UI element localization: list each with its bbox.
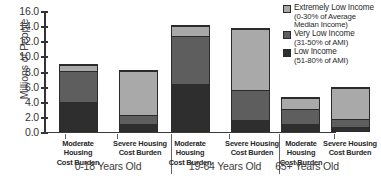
- legend-swatch-icon: [283, 5, 291, 13]
- category-label-line1: Severe Housing: [323, 139, 377, 148]
- category-label-line1: Moderate Housing: [285, 139, 317, 157]
- y-tick-mark: [41, 56, 48, 58]
- y-tick-mark: [41, 41, 48, 43]
- bar-segment-low: [332, 127, 369, 131]
- y-tick-label: 14.0: [19, 20, 39, 32]
- legend-label-sub: (51-80% of AMI): [294, 57, 348, 65]
- y-tick-label: 16.0: [19, 5, 39, 17]
- bar-segment-low: [60, 102, 97, 131]
- y-tick-label: 2.0: [25, 111, 39, 123]
- bar-segment-verylow: [332, 119, 369, 126]
- legend-label-sub: Median Income): [294, 21, 374, 29]
- legend-label: Low Income(51-80% of AMI): [294, 48, 348, 65]
- bar-segment-extreme: [282, 98, 319, 109]
- y-tick-label: 4.0: [25, 96, 39, 108]
- legend-label: Extremely Low Income(0-30% of AverageMed…: [294, 4, 374, 29]
- y-tick-mark: [41, 72, 48, 74]
- category-label-line1: Moderate Housing: [62, 139, 94, 157]
- group-label: 65+ Years Old: [257, 160, 357, 172]
- y-tick-mark: [41, 11, 48, 13]
- x-axis-baseline: [44, 132, 336, 133]
- y-tick-label: 6.0: [25, 81, 39, 93]
- legend-swatch-icon: [283, 49, 291, 57]
- legend-label-sub: (31-50% of AMI): [294, 39, 355, 47]
- legend-item: Low Income(51-80% of AMI): [283, 48, 381, 65]
- category-label-line2: Cost Burden: [320, 148, 380, 157]
- bar-segment-verylow: [232, 90, 269, 120]
- group-label: 0-18 Years Old: [58, 160, 158, 172]
- bar-segment-extreme: [332, 88, 369, 119]
- bar-segment-verylow: [120, 115, 157, 124]
- legend-item: Very Low Income(31-50% of AMI): [283, 30, 381, 47]
- bar-segment-low: [172, 84, 209, 131]
- y-tick-label: 10.0: [19, 50, 39, 62]
- bar: [231, 28, 270, 132]
- legend-item: Extremely Low Income(0-30% of AverageMed…: [283, 4, 381, 29]
- bar: [281, 97, 320, 132]
- y-tick-label: 0.0: [25, 126, 39, 138]
- category-label-line1: Moderate Housing: [174, 139, 206, 157]
- bar: [119, 70, 158, 132]
- bar-segment-extreme: [232, 29, 269, 91]
- legend-swatch-icon: [283, 31, 291, 39]
- chart-legend: Extremely Low Income(0-30% of AverageMed…: [283, 4, 381, 66]
- y-tick-mark: [41, 26, 48, 28]
- bar: [331, 87, 370, 132]
- chart-container: Millions of People 0.02.04.06.08.010.012…: [0, 0, 381, 178]
- y-tick-mark: [41, 102, 48, 104]
- y-tick-mark: [41, 87, 48, 89]
- category-label: Severe HousingCost Burden: [320, 139, 380, 158]
- bar-segment-extreme: [120, 71, 157, 115]
- legend-label: Very Low Income(31-50% of AMI): [294, 30, 355, 47]
- y-tick-label: 8.0: [25, 66, 39, 78]
- bar-segment-low: [120, 124, 157, 131]
- bar-segment-verylow: [172, 36, 209, 84]
- y-tick-label: 12.0: [19, 35, 39, 47]
- category-label-line1: Severe Housing: [113, 139, 167, 148]
- bar-segment-verylow: [282, 109, 319, 124]
- bar: [59, 64, 98, 132]
- bar-segment-low: [282, 124, 319, 131]
- bar-segment-verylow: [60, 71, 97, 102]
- bar-segment-extreme: [172, 26, 209, 36]
- bar: [171, 25, 210, 132]
- y-tick-mark: [41, 117, 48, 119]
- bar-segment-low: [232, 120, 269, 131]
